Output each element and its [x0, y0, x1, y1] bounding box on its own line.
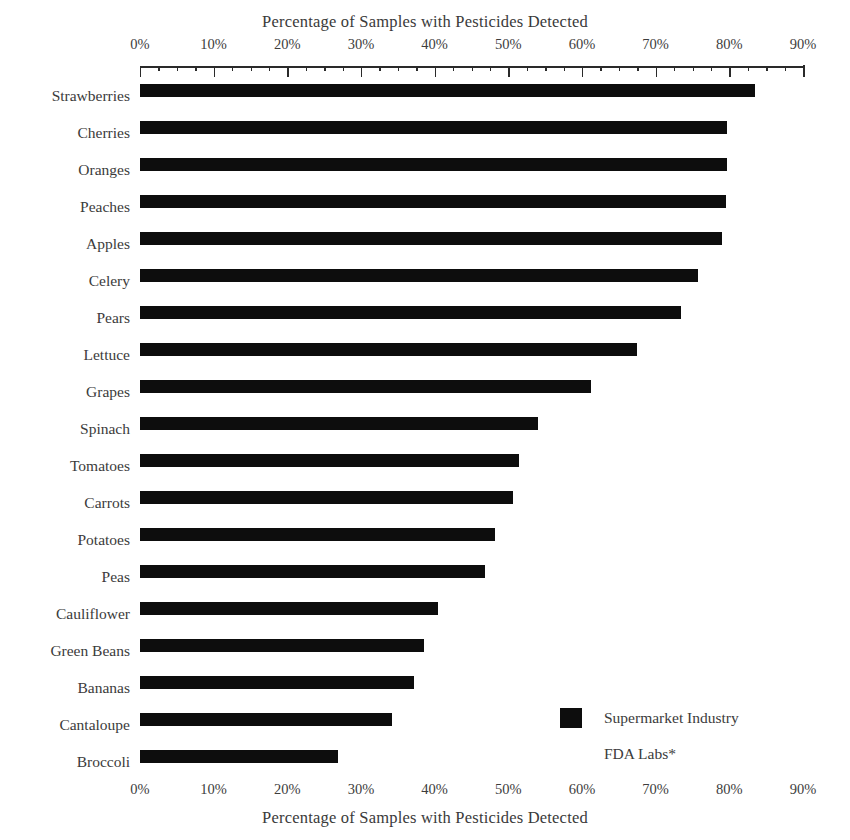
- x-tick-label: 80%: [716, 781, 743, 798]
- bar-supermarket-industry: [140, 639, 424, 652]
- x-axis-minor-tick: [232, 66, 233, 71]
- chart-row: Cherries: [0, 115, 850, 152]
- category-label: Carrots: [0, 494, 130, 512]
- bar-supermarket-industry: [140, 713, 392, 726]
- legend-label: FDA Labs*: [604, 745, 676, 763]
- legend-swatch-icon: [560, 708, 582, 728]
- legend-item[interactable]: FDA Labs*: [560, 736, 840, 772]
- chart-row: Carrots: [0, 485, 850, 522]
- bar-supermarket-industry: [140, 565, 485, 578]
- x-tick-label: 60%: [569, 36, 596, 53]
- x-axis-minor-tick: [472, 66, 473, 71]
- bar-supermarket-industry: [140, 750, 338, 763]
- bar-supermarket-industry: [140, 417, 538, 430]
- category-label: Grapes: [0, 383, 130, 401]
- legend-item[interactable]: Supermarket Industry: [560, 700, 840, 736]
- x-axis-minor-tick: [693, 66, 694, 71]
- x-axis-major-tick: [287, 66, 288, 77]
- x-axis-minor-tick: [343, 66, 344, 71]
- category-label: Peas: [0, 568, 130, 586]
- x-axis-minor-tick: [306, 66, 307, 71]
- x-axis-major-tick: [214, 66, 215, 77]
- bar-supermarket-industry: [140, 528, 495, 541]
- top-axis-title: Percentage of Samples with Pesticides De…: [0, 12, 850, 32]
- bar-supermarket-industry: [140, 343, 637, 356]
- x-axis-minor-tick: [379, 66, 380, 71]
- x-tick-label: 90%: [790, 36, 817, 53]
- chart-row: Green Beans: [0, 633, 850, 670]
- bottom-axis-title: Percentage of Samples with Pesticides De…: [0, 808, 850, 828]
- x-tick-label: 50%: [495, 781, 522, 798]
- x-axis-end-cap: [803, 65, 805, 77]
- chart-row: Apples: [0, 226, 850, 263]
- x-axis-minor-tick: [398, 66, 399, 71]
- category-label: Apples: [0, 235, 130, 253]
- category-label: Potatoes: [0, 531, 130, 549]
- x-tick-label: 50%: [495, 36, 522, 53]
- x-tick-label: 0%: [130, 781, 149, 798]
- x-axis-minor-tick: [619, 66, 620, 71]
- x-axis-minor-tick: [527, 66, 528, 71]
- chart-row: Grapes: [0, 374, 850, 411]
- bar-supermarket-industry: [140, 676, 414, 689]
- plot-area: StrawberriesCherriesOrangesPeachesApples…: [0, 78, 850, 778]
- legend-label: Supermarket Industry: [604, 709, 739, 727]
- chart-row: Pears: [0, 300, 850, 337]
- chart-row: Potatoes: [0, 522, 850, 559]
- bar-supermarket-industry: [140, 602, 438, 615]
- x-axis-minor-tick: [490, 66, 491, 71]
- x-axis-minor-tick: [545, 66, 546, 71]
- x-axis-minor-tick: [674, 66, 675, 71]
- x-tick-label: 70%: [642, 781, 669, 798]
- x-axis-minor-tick: [564, 66, 565, 71]
- chart-row: Cauliflower: [0, 596, 850, 633]
- pesticide-bar-chart: Percentage of Samples with Pesticides De…: [0, 0, 850, 840]
- x-tick-label: 60%: [569, 781, 596, 798]
- category-label: Peaches: [0, 198, 130, 216]
- top-axis: [140, 66, 803, 78]
- bar-supermarket-industry: [140, 491, 513, 504]
- bar-supermarket-industry: [140, 84, 755, 97]
- x-tick-label: 20%: [274, 781, 301, 798]
- category-label: Bananas: [0, 679, 130, 697]
- category-label: Cauliflower: [0, 605, 130, 623]
- x-axis-minor-tick: [324, 66, 325, 71]
- x-axis-major-tick: [435, 66, 436, 77]
- category-label: Celery: [0, 272, 130, 290]
- x-tick-label: 40%: [421, 781, 448, 798]
- bar-supermarket-industry: [140, 195, 726, 208]
- x-tick-label: 20%: [274, 36, 301, 53]
- x-tick-label: 30%: [348, 781, 375, 798]
- bar-supermarket-industry: [140, 269, 698, 282]
- x-axis-major-tick: [582, 66, 583, 77]
- category-label: Strawberries: [0, 87, 130, 105]
- x-axis-major-tick: [508, 66, 509, 77]
- x-axis-minor-tick: [158, 66, 159, 71]
- x-axis-major-tick: [361, 66, 362, 77]
- x-axis-minor-tick: [748, 66, 749, 71]
- x-axis-major-tick: [140, 66, 141, 77]
- x-axis-minor-tick: [637, 66, 638, 71]
- category-label: Cantaloupe: [0, 716, 130, 734]
- x-tick-label: 30%: [348, 36, 375, 53]
- bottom-tick-label-row: 0%10%20%30%40%50%60%70%80%90%: [0, 781, 850, 801]
- x-axis-minor-tick: [177, 66, 178, 71]
- x-axis-minor-tick: [785, 66, 786, 71]
- x-axis-minor-tick: [269, 66, 270, 71]
- x-tick-label: 90%: [790, 781, 817, 798]
- bar-supermarket-industry: [140, 121, 727, 134]
- category-label: Pears: [0, 309, 130, 327]
- chart-row: Tomatoes: [0, 448, 850, 485]
- chart-row: Celery: [0, 263, 850, 300]
- bar-supermarket-industry: [140, 306, 681, 319]
- legend: Supermarket IndustryFDA Labs*: [560, 700, 840, 772]
- chart-row: Lettuce: [0, 337, 850, 374]
- bar-supermarket-industry: [140, 232, 722, 245]
- category-label: Broccoli: [0, 753, 130, 771]
- x-axis-major-tick: [656, 66, 657, 77]
- chart-row: Spinach: [0, 411, 850, 448]
- bar-supermarket-industry: [140, 380, 591, 393]
- bar-supermarket-industry: [140, 158, 727, 171]
- category-label: Oranges: [0, 161, 130, 179]
- x-axis-minor-tick: [416, 66, 417, 71]
